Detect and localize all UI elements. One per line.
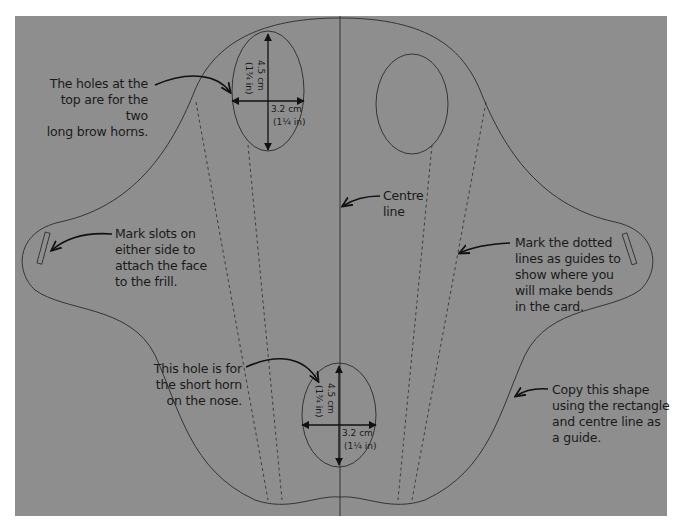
annotation-line: Centre [383, 188, 443, 204]
annotation-line: on the nose. [140, 393, 242, 409]
annotation-brow-horns: The holes at the top are for the two lon… [40, 76, 148, 140]
annotation-dotted-lines: Mark the dotted lines as guides to show … [515, 235, 625, 315]
nose-hole-width-cm: 3.2 cm [342, 428, 373, 439]
annotation-line: top are for the two [40, 92, 148, 124]
top-right-hole [376, 54, 448, 154]
annotation-line: lines as guides to [515, 251, 625, 267]
annotation-nose-horn: This hole is for the short horn on the n… [140, 361, 242, 409]
annotation-centre-line: Centre line [383, 188, 443, 220]
top-hole-width-cm: 3.2 cm [271, 104, 302, 115]
annotation-slots: Mark slots on either side to attach the … [115, 226, 235, 290]
annotation-line: Mark slots on [115, 226, 235, 242]
arrow-nose-horn [246, 359, 318, 381]
annotation-line: a guide. [552, 430, 672, 446]
top-hole-height-in: (1¾ in) [243, 62, 254, 95]
annotation-line: The holes at the [40, 76, 148, 92]
annotation-line: either side to [115, 242, 235, 258]
arrow-brow-horns [155, 76, 230, 92]
left-slot [37, 232, 50, 264]
nose-hole-height-cm: 4.5 cm [325, 383, 336, 414]
nose-hole-height-in: (1¾ in) [313, 385, 324, 418]
annotation-line: line [383, 204, 443, 220]
top-hole-width-in: (1¼ in) [273, 117, 306, 128]
annotation-line: Mark the dotted [515, 235, 625, 251]
annotation-line: the short horn [140, 377, 242, 393]
arrow-slots [52, 234, 112, 250]
top-hole-height-cm: 4.5 cm [255, 60, 266, 91]
annotation-line: using the rectangle [552, 398, 672, 414]
arrow-centre [343, 196, 380, 206]
annotation-line: This hole is for [140, 361, 242, 377]
annotation-line: will make bends [515, 283, 625, 299]
arrow-dotted [460, 243, 510, 253]
annotation-line: show where you [515, 267, 625, 283]
nose-hole-width-in: (1¼ in) [344, 441, 377, 452]
annotation-line: attach the face [115, 258, 235, 274]
annotation-line: and centre line as [552, 414, 672, 430]
arrow-copy-shape [516, 389, 548, 396]
dotted-fold-lines [196, 102, 486, 500]
annotation-line: in the card. [515, 299, 625, 315]
annotation-line: Copy this shape [552, 382, 672, 398]
annotation-line: to the frill. [115, 274, 235, 290]
annotation-copy-shape: Copy this shape using the rectangle and … [552, 382, 672, 446]
annotation-line: long brow horns. [40, 124, 148, 140]
